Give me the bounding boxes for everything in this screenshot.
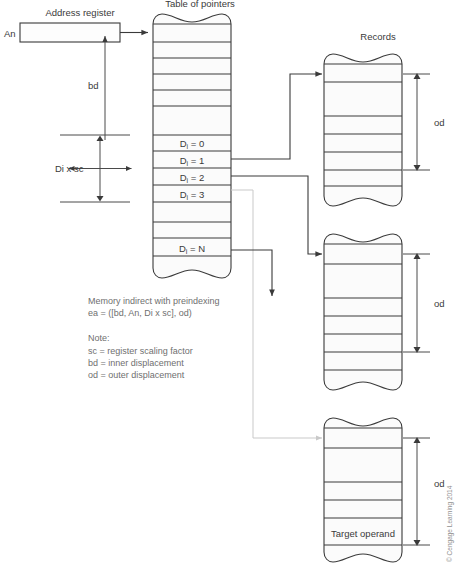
pointer-row-1-label: Di = 1 xyxy=(180,155,205,167)
bd-dimension-label: bd xyxy=(88,80,99,91)
records-title: Records xyxy=(360,31,396,42)
di-sc-arrowhead-top xyxy=(97,136,104,142)
di-sc-dimension-label: Di x sc xyxy=(55,163,84,174)
memory-indirect-preindexing-diagram: Address register An bd Di x sc Table of … xyxy=(0,0,460,574)
di-sc-arrowhead-bottom xyxy=(97,196,104,202)
note-line-formula: ea = ([bd, An, Di x sc], od) xyxy=(88,308,192,318)
figure-canvas: Address register An bd Di x sc Table of … xyxy=(0,0,460,574)
register-name-label: An xyxy=(4,28,16,39)
records-block-bottom xyxy=(324,418,402,562)
pointer-row-3-label: Di = 3 xyxy=(180,189,205,201)
pointer-row-0-label: Di = 0 xyxy=(180,138,205,150)
pointer-2-to-record-connector xyxy=(231,176,322,254)
note-line-sc: sc = register scaling factor xyxy=(88,346,193,356)
note-line-heading: Note: xyxy=(88,333,110,343)
target-operand-label: Target operand xyxy=(331,528,395,539)
pointer-3-to-record-connector xyxy=(253,190,322,438)
od-bottom-label: od xyxy=(434,478,445,489)
table-of-pointers-title: Table of pointers xyxy=(165,0,235,9)
od-top-label: od xyxy=(434,117,445,128)
note-line-od: od = outer displacement xyxy=(88,370,185,380)
pointer-0-to-record-connector xyxy=(231,74,322,159)
note-line-bd: bd = inner displacement xyxy=(88,358,184,368)
copyright-notice: © Cengage Learning 2014 xyxy=(446,485,454,562)
note-line-title: Memory indirect with preindexing xyxy=(88,296,220,306)
records-block-top xyxy=(324,54,402,206)
address-register-title: Address register xyxy=(45,7,114,18)
pointer-row-2-label: Di = 2 xyxy=(180,172,205,184)
pointer-row-n-label: Di = N xyxy=(179,243,205,255)
pointer-n-dangling-connector xyxy=(231,250,272,296)
records-block-middle xyxy=(324,234,402,390)
od-middle-label: od xyxy=(434,298,445,309)
